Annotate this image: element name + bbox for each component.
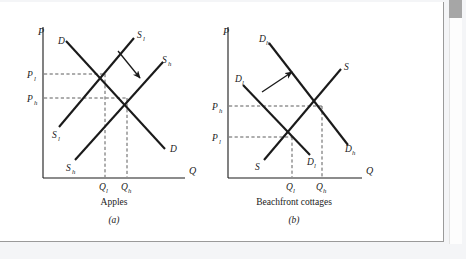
panel-a-label-demand-bottom: D xyxy=(169,144,177,154)
panel-b-label-supply-bottom: S xyxy=(255,162,260,172)
panel-b-price-tick-high: P h xyxy=(211,102,223,114)
svg-text:h: h xyxy=(323,187,327,194)
panel-a-price-tick-low: P l xyxy=(26,70,36,82)
svg-text:D: D xyxy=(258,34,266,44)
panel-b-x-axis-label: Q xyxy=(366,165,374,176)
svg-text:l: l xyxy=(242,79,244,86)
panel-b-sublabel: (b) xyxy=(288,215,299,226)
panel-b-y-axis-label: P xyxy=(222,26,229,37)
panel-a-y-axis-label: P xyxy=(37,26,44,37)
svg-text:P: P xyxy=(211,102,218,112)
svg-text:Q: Q xyxy=(286,182,293,192)
svg-text:l: l xyxy=(106,187,108,194)
panel-a-supply-high-curve xyxy=(75,62,163,160)
svg-text:S: S xyxy=(162,55,167,65)
panel-a-label-supply-low-bottom: S l xyxy=(52,130,60,142)
svg-text:l: l xyxy=(314,162,316,169)
panel-b-caption: Beachfront cottages xyxy=(256,197,332,207)
svg-text:l: l xyxy=(143,35,145,42)
svg-text:S: S xyxy=(66,163,71,173)
panel-a-shift-arrow xyxy=(118,51,140,78)
svg-text:Q: Q xyxy=(99,182,106,192)
svg-text:D: D xyxy=(169,144,177,154)
panel-a-quantity-tick-high: Q h xyxy=(121,182,132,194)
panel-a-label-supply-low-top: S l xyxy=(137,30,145,42)
svg-text:Q: Q xyxy=(121,182,128,192)
panel-b-label-demand-low-bottom: D l xyxy=(306,157,316,169)
svg-text:l: l xyxy=(293,187,295,194)
panel-b-label-supply-top: S xyxy=(344,62,349,72)
panel-b-label-demand-low-top: D l xyxy=(234,74,244,86)
panel-b-label-demand-high-bottom: D h xyxy=(344,144,356,156)
svg-text:h: h xyxy=(219,107,223,114)
svg-text:D: D xyxy=(344,144,352,154)
svg-text:P: P xyxy=(26,94,33,104)
panel-a-quantity-tick-low: Q l xyxy=(99,182,108,194)
svg-text:S: S xyxy=(255,162,260,172)
svg-text:h: h xyxy=(352,149,356,156)
panel-a-label-supply-high-top: S h xyxy=(162,55,172,67)
svg-text:Q: Q xyxy=(316,182,323,192)
panel-a-demand-curve xyxy=(66,41,165,149)
panel-b-label-demand-high-top: D h xyxy=(258,34,270,46)
svg-text:D: D xyxy=(306,157,314,167)
svg-text:l: l xyxy=(34,75,36,82)
svg-text:l: l xyxy=(58,135,60,142)
panel-a-supply-low-curve xyxy=(59,38,134,127)
panel-b-quantity-tick-high: Q h xyxy=(316,182,327,194)
svg-text:S: S xyxy=(52,130,57,140)
panel-a-price-tick-high: P h xyxy=(26,94,38,106)
panel-b-price-tick-low: P l xyxy=(211,133,221,145)
svg-text:S: S xyxy=(137,30,142,40)
panel-a-label-supply-high-bottom: S h xyxy=(66,163,76,175)
panel-b-quantity-tick-low: Q l xyxy=(286,182,295,194)
panel-a-caption: Apples xyxy=(101,197,128,207)
svg-text:P: P xyxy=(26,70,33,80)
panel-a: P Q P l P h Q l Q h D D S l xyxy=(26,26,197,226)
svg-text:D: D xyxy=(57,36,65,46)
svg-text:P: P xyxy=(211,133,218,143)
svg-text:h: h xyxy=(168,60,172,67)
svg-text:h: h xyxy=(72,168,76,175)
panel-b: P Q P h P l Q l Q h D h D h D xyxy=(211,26,374,226)
economics-supply-demand-figure: P Q P l P h Q l Q h D D S l xyxy=(0,0,466,259)
panel-b-demand-high-curve xyxy=(269,43,348,145)
panel-a-sublabel: (a) xyxy=(108,215,119,226)
svg-text:h: h xyxy=(128,187,132,194)
svg-text:l: l xyxy=(219,138,221,145)
panel-b-shift-arrow xyxy=(262,72,292,92)
panel-a-label-demand-top: D xyxy=(57,36,65,46)
svg-text:D: D xyxy=(234,74,242,84)
svg-text:h: h xyxy=(34,99,38,106)
panel-a-x-axis-label: Q xyxy=(189,165,197,176)
svg-text:h: h xyxy=(266,39,270,46)
svg-text:S: S xyxy=(344,62,349,72)
